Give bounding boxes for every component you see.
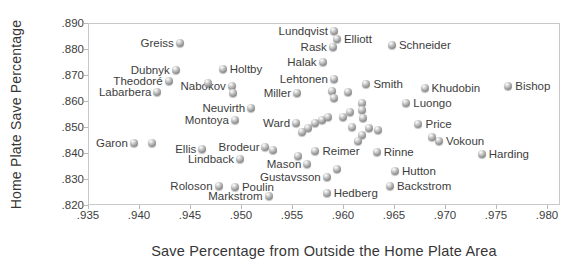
x-tick-label: .980 [536, 209, 558, 221]
y-tick-mark [84, 49, 88, 50]
y-tick-mark [84, 127, 88, 128]
data-point [236, 155, 244, 163]
x-tick-label: .945 [179, 209, 201, 221]
data-point [172, 66, 180, 74]
point-label: Lundqvist [279, 24, 328, 38]
data-point [323, 173, 331, 181]
x-tick-label: .955 [281, 209, 303, 221]
point-label: Miller [264, 86, 291, 100]
point-label: Rask [301, 40, 327, 54]
data-point [435, 137, 443, 145]
point-label: Khudobin [432, 81, 481, 95]
point-label: Greiss [141, 36, 174, 50]
data-point [374, 126, 382, 134]
x-tick-label: .975 [485, 209, 507, 221]
data-point [373, 148, 381, 156]
x-tick-label: .970 [434, 209, 456, 221]
x-tick-label: .950 [230, 209, 252, 221]
data-point [319, 58, 327, 66]
x-tick-label: .965 [383, 209, 405, 221]
point-label: Smith [373, 77, 402, 91]
y-tick-mark [84, 205, 88, 206]
data-point [365, 124, 373, 132]
data-point [231, 116, 239, 124]
point-label: Hutton [402, 164, 436, 178]
point-label: Halak [287, 55, 316, 69]
y-tick-label: .880 [48, 43, 84, 55]
point-label: Price [425, 117, 451, 131]
point-label: Holtby [230, 62, 263, 76]
x-axis-title: Save Percentage from Outside the Home Pl… [88, 243, 560, 259]
data-point [346, 108, 354, 116]
y-tick-mark [84, 153, 88, 154]
data-point [388, 41, 396, 49]
point-label: Hedberg [334, 186, 378, 200]
point-label: Backstrom [397, 179, 451, 193]
data-point [330, 27, 338, 35]
data-point [386, 182, 394, 190]
data-point [329, 43, 337, 51]
y-tick-label: .830 [48, 173, 84, 185]
point-label: Luongo [413, 96, 451, 110]
point-label: Nabokov [180, 79, 225, 93]
point-label: Roloson [170, 179, 212, 193]
y-tick-label: .840 [48, 147, 84, 159]
data-point [330, 94, 338, 102]
data-point [344, 88, 352, 96]
y-tick-label: .860 [48, 95, 84, 107]
data-point [333, 165, 341, 173]
y-tick-label: .870 [48, 69, 84, 81]
data-point [324, 113, 332, 121]
point-label: Montoya [185, 113, 229, 127]
point-label: Vokoun [446, 134, 484, 148]
point-label: Garon [96, 136, 128, 150]
data-point [391, 167, 399, 175]
y-tick-label: .890 [48, 17, 84, 29]
point-label: Lehtonen [280, 72, 328, 86]
y-tick-mark [84, 75, 88, 76]
x-tick-label: .940 [128, 209, 150, 221]
y-tick-label: .850 [48, 121, 84, 133]
data-point [130, 139, 138, 147]
data-point [176, 39, 184, 47]
point-label: Labarbera [99, 85, 151, 99]
data-point [229, 89, 237, 97]
point-label: Lindback [188, 152, 234, 166]
data-point [478, 150, 486, 158]
data-point [330, 75, 338, 83]
data-point [269, 146, 277, 154]
y-tick-mark [84, 179, 88, 180]
point-label: Markstrom [208, 189, 262, 203]
data-point [293, 89, 301, 97]
point-label: Elliott [344, 32, 372, 46]
point-label: Schneider [399, 38, 451, 52]
data-point [219, 65, 227, 73]
point-label: Rinne [384, 145, 414, 159]
point-label: Ward [263, 116, 290, 130]
point-label: Reimer [322, 144, 359, 158]
data-point [165, 77, 173, 85]
data-point [323, 189, 331, 197]
data-point [333, 35, 341, 43]
scatter-chart: Home Plate Save Percentage Save Percenta… [0, 0, 579, 273]
point-label: Bishop [515, 79, 550, 93]
y-tick-label: .820 [48, 199, 84, 211]
x-tick-label: .960 [332, 209, 354, 221]
data-point [265, 192, 273, 200]
data-point [428, 133, 436, 141]
y-tick-mark [84, 101, 88, 102]
y-axis-title: Home Plate Save Percentage [8, 5, 25, 225]
data-point [421, 84, 429, 92]
point-label: Harding [489, 147, 529, 161]
y-tick-mark [84, 23, 88, 24]
